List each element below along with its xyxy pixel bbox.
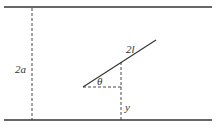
rod [83, 40, 156, 87]
rod-length-label: 2l [126, 43, 135, 55]
needle-between-walls-diagram: 2a 2l θ y [0, 0, 216, 132]
height-label: y [124, 101, 130, 113]
width-label: 2a [15, 63, 27, 75]
angle-label: θ [97, 75, 103, 87]
